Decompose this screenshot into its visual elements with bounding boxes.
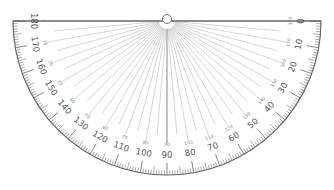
degree-tick [122, 164, 123, 168]
inner-degree-label: 20 [47, 60, 54, 67]
outer-degree-label: 30 [276, 81, 290, 95]
degree-tick [304, 82, 308, 84]
degree-tick [308, 70, 312, 71]
degree-tick [68, 130, 76, 139]
degree-tick [190, 169, 191, 173]
degree-tick [56, 125, 59, 128]
degree-tick [196, 168, 197, 172]
degree-tick [76, 142, 79, 146]
outer-degree-label: 40 [262, 99, 277, 114]
degree-tick [74, 140, 77, 144]
degree-tick [14, 39, 18, 40]
degree-tick [235, 154, 237, 158]
angle-ray [86, 27, 161, 102]
degree-tick [14, 42, 18, 43]
degree-tick [44, 111, 48, 114]
degree-tick [185, 169, 186, 173]
degree-tick [233, 155, 235, 159]
angle-ray [171, 28, 228, 127]
angle-ray [106, 28, 163, 127]
degree-tick [19, 62, 23, 63]
degree-tick [154, 166, 155, 174]
degree-tick [26, 82, 30, 84]
outer-degree-label: 180 [29, 13, 39, 29]
degree-tick [132, 167, 133, 171]
degree-tick [257, 140, 260, 144]
inner-degree-label: 30 [56, 79, 63, 87]
angle-ray [173, 27, 248, 102]
inner-degree-label: 80 [142, 140, 149, 146]
degree-tick [23, 75, 27, 77]
inner-degree-label: 0 [41, 20, 46, 23]
angle-ray [102, 28, 163, 115]
degree-tick [292, 102, 296, 104]
degree-tick [39, 105, 43, 108]
inner-degree-label: 60 [101, 125, 109, 132]
degree-tick [15, 46, 27, 48]
degree-tick [315, 39, 319, 40]
degree-tick [47, 115, 50, 118]
degree-tick [14, 34, 22, 35]
center-hole-icon [163, 15, 172, 24]
degree-tick [300, 89, 304, 91]
degree-tick [294, 100, 298, 102]
degree-tick [255, 142, 258, 146]
inner-degree-label: 10 [42, 39, 48, 46]
degree-tick [305, 79, 309, 81]
degree-tick [312, 57, 316, 58]
degree-tick [225, 159, 227, 163]
degree-tick [81, 145, 84, 149]
degree-tick [310, 65, 314, 66]
degree-tick [312, 34, 320, 35]
degree-tick [314, 50, 318, 51]
degree-tick [62, 130, 65, 133]
degree-tick [307, 75, 311, 77]
degree-tick [275, 125, 278, 128]
outer-degree-label: 0 [296, 18, 306, 23]
degree-tick [228, 158, 230, 162]
degree-tick [288, 109, 292, 112]
inner-degree-label: 110 [204, 133, 214, 141]
degree-tick [17, 55, 21, 56]
degree-tick [138, 168, 139, 172]
degree-tick [286, 111, 290, 114]
degree-tick [238, 144, 244, 154]
degree-tick [299, 91, 303, 93]
inner-degree-label: 50 [84, 112, 92, 120]
degree-tick [246, 148, 248, 152]
degree-tick [278, 121, 281, 124]
degree-tick [42, 109, 46, 112]
outer-degree-label: 80 [184, 147, 196, 159]
degree-tick [16, 52, 20, 53]
degree-tick [117, 162, 118, 166]
inner-degree-label: 90 [164, 142, 170, 147]
degree-tick [51, 119, 54, 122]
outer-degree-label: 60 [227, 130, 241, 144]
degree-tick [265, 134, 268, 137]
degree-tick [285, 113, 289, 116]
degree-tick [18, 57, 22, 58]
degree-tick [97, 154, 99, 158]
outer-degree-label: 170 [29, 35, 42, 53]
degree-tick [237, 153, 239, 157]
degree-tick [192, 161, 194, 173]
protractor: 0180101702016030150401405013060120701108… [0, 0, 334, 190]
degree-tick [112, 161, 114, 165]
outer-degree-label: 100 [135, 146, 153, 159]
degree-tick [66, 134, 69, 137]
outer-degree-label: 10 [293, 38, 305, 50]
degree-tick [313, 55, 317, 56]
degree-tick [251, 145, 254, 149]
outer-degree-label: 70 [206, 140, 220, 153]
degree-tick [95, 153, 97, 157]
degree-tick [295, 98, 299, 100]
angle-ray [175, 23, 277, 50]
degree-tick [188, 169, 189, 173]
degree-tick [32, 93, 36, 95]
degree-tick [64, 132, 67, 135]
degree-tick [198, 167, 199, 171]
degree-tick [49, 112, 58, 120]
degree-tick [21, 70, 25, 71]
degree-tick [54, 123, 57, 126]
degree-tick [223, 160, 225, 164]
